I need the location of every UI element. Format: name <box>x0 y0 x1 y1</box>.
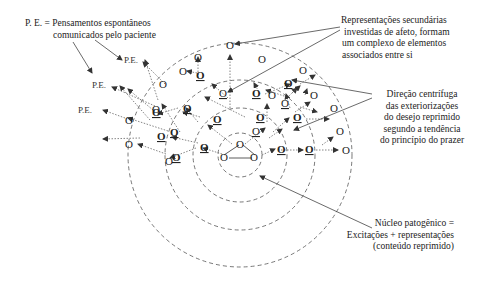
ring-2 <box>193 108 287 202</box>
svg-text:O: O <box>305 143 314 155</box>
svg-text:O: O <box>281 97 289 109</box>
svg-text:O: O <box>125 114 133 126</box>
svg-text:O: O <box>194 51 202 63</box>
svg-text:O: O <box>268 89 276 101</box>
pe-node-3: P.E. <box>78 105 92 115</box>
svg-text:O: O <box>172 151 181 163</box>
representation-nodes: O O O O O O O O O O O O O O O O O O O O … <box>125 39 350 167</box>
svg-text:O: O <box>170 126 179 138</box>
svg-text:O: O <box>125 138 133 150</box>
svg-text:O: O <box>310 89 318 101</box>
pe-node-2: P.E. <box>92 80 106 90</box>
svg-text:O: O <box>252 125 260 137</box>
svg-text:O: O <box>157 130 166 142</box>
svg-text:O: O <box>152 103 160 115</box>
svg-text:O: O <box>196 69 205 81</box>
svg-text:O: O <box>159 78 167 90</box>
svg-text:O: O <box>284 77 293 89</box>
pe-nodes: P.E. P.E. P.E. <box>78 55 138 115</box>
pathogenic-nucleus-label: Núcleo patogênico = Excitações + represe… <box>340 218 454 253</box>
svg-text:O: O <box>213 113 222 125</box>
svg-text:O: O <box>258 53 266 65</box>
svg-text:O: O <box>200 141 209 153</box>
centrifugal-direction-label: Direção centrífuga das exteriorizações d… <box>366 89 478 147</box>
svg-text:O: O <box>293 111 302 123</box>
svg-text:O: O <box>250 151 258 163</box>
svg-text:O: O <box>226 39 234 51</box>
svg-text:O: O <box>342 144 350 156</box>
pe-node-1: P.E. <box>124 55 138 65</box>
pointer-lines <box>73 27 372 228</box>
ring-4 <box>128 43 352 267</box>
svg-text:O: O <box>183 102 192 114</box>
svg-text:O: O <box>336 125 344 137</box>
svg-text:O: O <box>299 64 307 76</box>
svg-text:O: O <box>219 87 227 99</box>
svg-text:O: O <box>236 138 244 150</box>
svg-text:O: O <box>256 111 265 123</box>
svg-text:O: O <box>179 65 187 77</box>
secondary-representations-label: Representações secundárias investidas de… <box>341 15 450 61</box>
concentric-rings <box>128 43 352 267</box>
svg-text:O: O <box>220 151 228 163</box>
svg-text:O: O <box>252 87 261 99</box>
svg-text:O: O <box>277 143 286 155</box>
pe-legend-label: P. E. = Pensamentos espontâneos comunica… <box>25 18 156 41</box>
